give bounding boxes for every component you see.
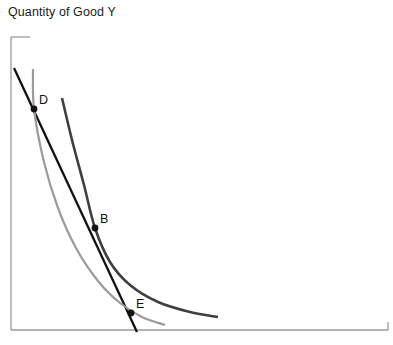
data-point-marker-b (92, 225, 99, 232)
data-point-label-b: B (100, 212, 108, 226)
data-point-label-e: E (136, 297, 144, 311)
data-point-marker-d (31, 106, 38, 113)
curves-group (14, 68, 218, 332)
indifference-curve-inner (33, 69, 165, 325)
indifference-curve-outer (62, 98, 218, 317)
plot-area (0, 0, 393, 345)
chart-figure: Quantity of Good Y DBE (0, 0, 393, 345)
data-point-label-d: D (39, 93, 48, 107)
data-point-marker-e (128, 310, 135, 317)
